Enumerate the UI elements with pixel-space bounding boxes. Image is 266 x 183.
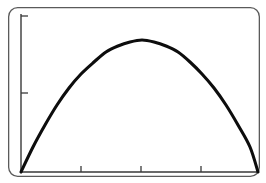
plot-frame-border (9, 8, 260, 177)
plot-canvas (0, 0, 266, 183)
figure-root: Line chart showing a smooth downward-ope… (0, 0, 266, 183)
